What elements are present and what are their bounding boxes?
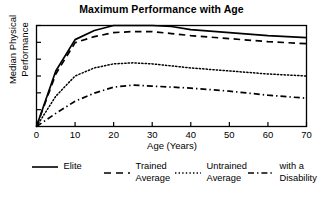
chart-figure: Maximum Performance with Age Median Phys…	[0, 0, 323, 203]
x-axis-tick-label: 40	[181, 129, 201, 140]
legend-label-trained-line1: Trained	[136, 161, 167, 171]
x-axis-tick-label: 60	[258, 129, 278, 140]
y-axis-ticks	[37, 26, 42, 110]
legend-item-elite[interactable]: Elite	[32, 161, 82, 173]
series-lines	[37, 26, 307, 127]
legend-swatch-solid-icon	[32, 163, 58, 171]
series-line-with-a-disability	[37, 85, 307, 126]
x-axis-tick-label: 50	[219, 129, 239, 140]
legend-item-with-a-disability[interactable]: with a Disability	[248, 161, 317, 184]
legend-label-untrained-line2: Average	[207, 173, 247, 185]
legend-item-trained-average[interactable]: Trained Average	[104, 161, 170, 184]
legend-swatch-dotted-icon	[175, 169, 201, 177]
chart-legend: Elite Trained Average Untrained Average	[0, 161, 323, 201]
legend-label-disability-line2: Disability	[280, 173, 317, 185]
legend-item-untrained-average[interactable]: Untrained Average	[175, 161, 247, 184]
legend-label-untrained-line1: Untrained	[207, 161, 247, 171]
x-axis-tick-label: 10	[65, 129, 85, 140]
series-line-untrained-average	[37, 63, 307, 127]
legend-swatch-dashdot-icon	[248, 169, 274, 177]
x-axis-tick-label: 0	[27, 129, 47, 140]
legend-swatch-dashed-icon	[104, 169, 130, 177]
series-line-trained-average	[37, 32, 307, 127]
x-axis-tick-label: 70	[297, 129, 317, 140]
x-axis-ticks	[37, 122, 307, 127]
legend-label-disability-line1: with a	[280, 161, 304, 171]
legend-label-elite: Elite	[64, 161, 82, 171]
x-axis-tick-label: 20	[104, 129, 124, 140]
x-axis-label: Age (Years)	[36, 140, 308, 151]
legend-label-trained-line2: Average	[136, 173, 170, 185]
x-axis-tick-label: 30	[142, 129, 162, 140]
